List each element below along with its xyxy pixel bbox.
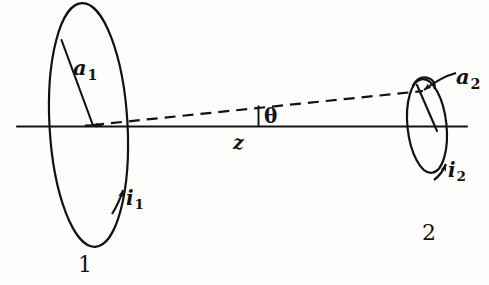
physics-figure-two-current-loops: a1 a2 i1 i2 z θ 1 2: [0, 0, 489, 285]
label-radius-1-subscript: 1: [87, 67, 97, 83]
label-separation-z: z: [233, 133, 244, 152]
label-current-2-subscript: 2: [456, 168, 465, 184]
label-radius-2-base: a: [456, 64, 470, 89]
label-radius-2: a2: [456, 66, 480, 91]
label-current-1-base: i: [126, 186, 134, 210]
label-current-2: i2: [448, 160, 466, 184]
diagram-canvas: [0, 0, 489, 285]
label-radius-1-base: a: [73, 55, 87, 80]
label-radius-2-subscript: 2: [470, 76, 480, 92]
label-loop-2-number: 2: [422, 222, 436, 244]
label-radius-1: a1: [73, 57, 97, 82]
label-current-1-subscript: 1: [134, 196, 143, 212]
label-angle-theta: θ: [264, 106, 277, 126]
label-current-2-base: i: [448, 158, 456, 182]
radius-1-line: [62, 40, 94, 126]
label-loop-1-number: 1: [78, 254, 92, 276]
label-current-1: i1: [126, 188, 144, 212]
radius-2-line: [417, 85, 437, 131]
